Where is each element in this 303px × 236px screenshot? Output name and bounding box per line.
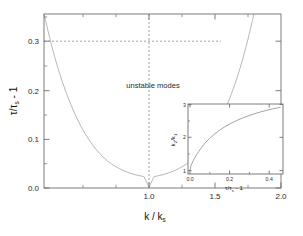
- y-axis-title: τ/τs - 1: [8, 86, 20, 115]
- inset-ytick-label-2: 2: [183, 134, 186, 140]
- inset-xtick-label-3: 0.4: [266, 176, 273, 182]
- ytick-label-2: 0.1: [28, 135, 40, 144]
- inset-background: [188, 104, 283, 174]
- ytick-label-1: 0.0: [28, 184, 40, 193]
- inset-xtick-label-1: 0.0: [186, 176, 193, 182]
- inset-ytick-label-1: 1: [183, 168, 186, 174]
- y-axis-title-tail: - 1: [8, 86, 19, 101]
- xtick-label-1: 1.0: [143, 192, 155, 201]
- inset-xtick-label-2: 0.2: [226, 176, 233, 182]
- figure-root: 1.0 1.5 2.0 0.0 0.1 0.2 0.3 k / ks τ/τs …: [0, 0, 303, 236]
- ytick-label-4: 0.3: [28, 37, 40, 46]
- inset-x-title-tail: - 1: [234, 184, 243, 191]
- svg-text:τ/τs - 1: τ/τs - 1: [8, 86, 20, 115]
- xtick-label-3: 2.0: [275, 192, 287, 201]
- x-axis-title-main: k / k: [144, 211, 163, 222]
- xtick-label-2: 1.5: [209, 192, 221, 201]
- unstable-modes-annotation: unstable modes: [126, 81, 180, 90]
- inset-ytick-label-3: 3: [183, 102, 186, 108]
- ytick-label-3: 0.2: [28, 87, 40, 96]
- chart-svg: 1.0 1.5 2.0 0.0 0.1 0.2 0.3 k / ks τ/τs …: [0, 0, 303, 236]
- y-axis-title-main: τ/τ: [8, 104, 19, 115]
